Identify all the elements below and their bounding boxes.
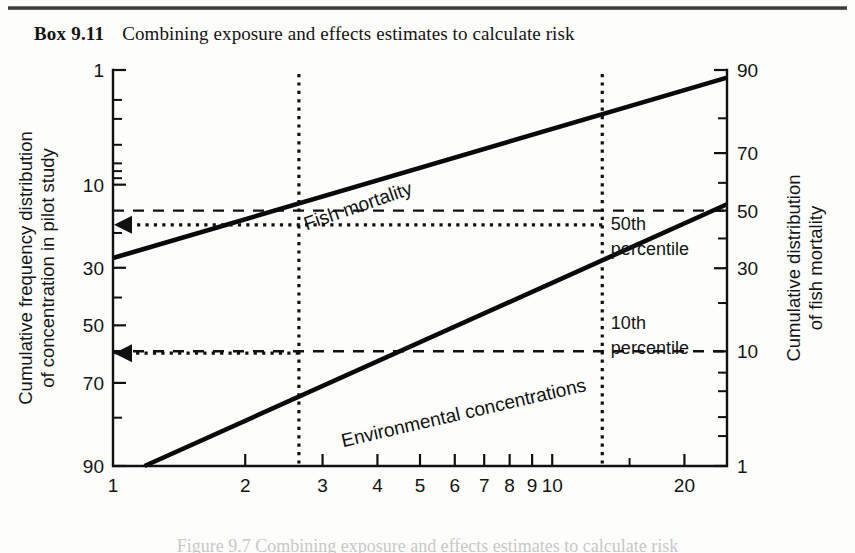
x-axis-tick-label: 3: [317, 475, 328, 496]
arrow-head-lower-risk-arrow: [114, 344, 132, 362]
series-label-environmental-concentrations: Environmental concentrations: [339, 374, 588, 451]
x-axis-tick-label: 8: [504, 475, 515, 496]
x-axis-tick-label: 4: [372, 475, 383, 496]
risk-assessment-chart: 1103050709090705030101123456789102050thp…: [0, 52, 855, 500]
y-axis-right-tick-label: 1: [737, 456, 748, 477]
y-axis-right-tick-label: 10: [737, 341, 758, 362]
annotation-50th-percentile: percentile: [611, 239, 689, 259]
y-axis-right-tick-label: 70: [737, 143, 758, 164]
page-top-rule: [8, 6, 847, 10]
y-axis-left-tick-label: 1: [93, 60, 104, 81]
y-axis-left-tick-label: 70: [83, 373, 104, 394]
y-axis-right-tick-label: 50: [737, 201, 758, 222]
y-axis-left-title-line: of concentration in pilot study: [37, 147, 58, 387]
x-axis-tick-label: 5: [415, 475, 426, 496]
chart-axis-frame: [113, 70, 727, 466]
x-axis-tick-label: 2: [240, 475, 251, 496]
figure-caption: Figure 9.7 Combining exposure and effect…: [0, 536, 855, 553]
y-axis-left-title-line: Cumulative frequency distribution: [15, 131, 36, 405]
x-axis-tick-label: 7: [479, 475, 490, 496]
x-axis-tick-label: 1: [108, 475, 119, 496]
x-axis-tick-label: 10: [542, 475, 563, 496]
x-axis-tick-label: 9: [527, 475, 538, 496]
series-label-environmental-concentrations-text: Environmental concentrations: [339, 374, 588, 451]
box-title: Combining exposure and effects estimates…: [122, 23, 574, 45]
annotation-10th-percentile: 10th: [611, 313, 646, 333]
y-axis-left-title: Cumulative frequency distributionof conc…: [15, 131, 58, 405]
y-axis-right-title-line: Cumulative distribution: [783, 174, 804, 361]
y-axis-left-tick-label: 10: [83, 175, 104, 196]
y-axis-left-tick-label: 90: [83, 456, 104, 477]
y-axis-left-tick-label: 50: [83, 315, 104, 336]
y-axis-right-title-line: of fish mortality: [805, 205, 826, 330]
annotation-50th-percentile: 50th: [611, 214, 646, 234]
y-axis-left-tick-label: 30: [83, 258, 104, 279]
annotation-10th-percentile: percentile: [611, 338, 689, 358]
x-axis-tick-label: 6: [449, 475, 460, 496]
chart-figure: 1103050709090705030101123456789102050thp…: [0, 52, 855, 500]
y-axis-right-tick-label: 90: [737, 60, 758, 81]
figure-page: Box 9.11 Combining exposure and effects …: [0, 0, 855, 553]
box-number-label: Box 9.11: [34, 23, 104, 45]
box-header: Box 9.11 Combining exposure and effects …: [34, 20, 824, 48]
arrow-head-upper-risk-arrow: [114, 216, 132, 234]
y-axis-right-title: Cumulative distributionof fish mortality: [783, 174, 826, 361]
x-axis-tick-label: 20: [674, 475, 695, 496]
y-axis-right-tick-label: 30: [737, 258, 758, 279]
